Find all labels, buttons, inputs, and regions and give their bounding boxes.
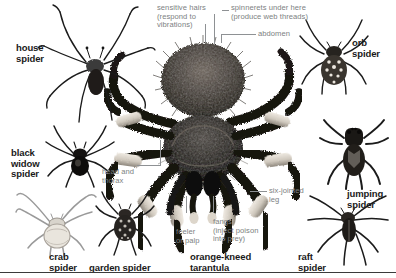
spider-diagram-page: sensitive hairs (respond to vibrations) … xyxy=(0,0,396,278)
label-six-jointed-leg: six-jointed leg xyxy=(269,187,313,204)
label-house-spider: house spider xyxy=(16,43,60,64)
garden-spider-illustration xyxy=(92,190,158,256)
leader-head-thorax xyxy=(160,140,161,165)
crab-spider-illustration xyxy=(16,188,98,258)
label-spinnerets: spinnerets under here (produce web threa… xyxy=(231,4,327,21)
label-orange-kneed-tarantula: orange-kneed tarantula xyxy=(190,252,272,273)
label-crab-spider: crab spider xyxy=(49,252,85,273)
bottom-divider-rule xyxy=(0,272,396,273)
label-orb-spider: orb spider xyxy=(352,38,390,59)
leader-head-thorax-h xyxy=(137,165,161,166)
leader-fangs xyxy=(213,196,214,213)
label-black-widow-spider: black widow spider xyxy=(11,148,55,180)
leader-abdomen-drop xyxy=(221,34,222,43)
label-sensitive-hairs: sensitive hairs (respond to vibrations) xyxy=(157,4,215,30)
label-jumping-spider: jumping spider xyxy=(347,189,395,210)
label-fangs: fangs (inject poison into prey) xyxy=(213,218,269,244)
leader-abdomen xyxy=(221,34,256,35)
label-raft-spider: raft spider xyxy=(298,252,336,273)
leader-six-jointed-leg xyxy=(250,191,267,192)
label-feeler-or-palp: feeler or palp xyxy=(176,228,212,245)
leader-feeler xyxy=(186,196,187,213)
jumping-spider-illustration xyxy=(318,118,390,190)
label-abdomen: abdomen xyxy=(258,30,290,39)
house-spider-illustration xyxy=(38,4,156,126)
label-head-and-thorax: head and thorax xyxy=(102,168,146,185)
leader-spinnerets-dash xyxy=(222,10,229,11)
